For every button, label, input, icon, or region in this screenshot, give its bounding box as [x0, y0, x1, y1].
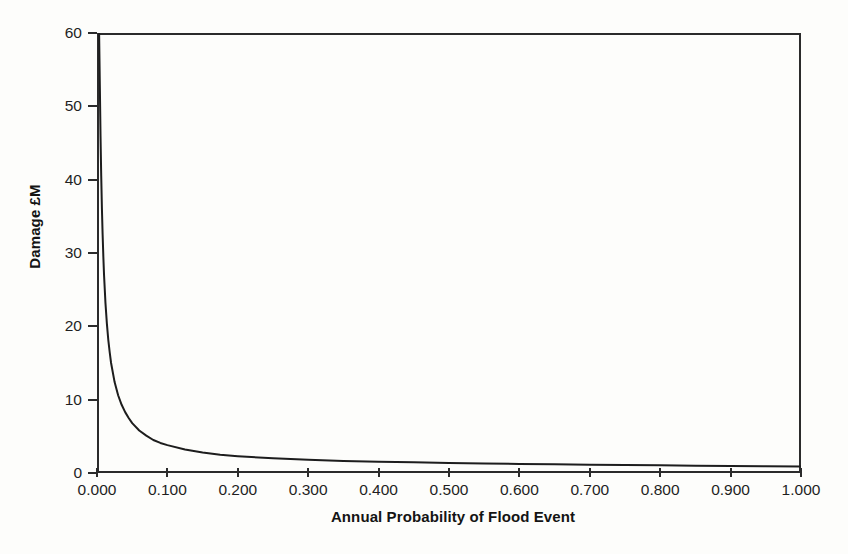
- x-tick-label-text: 0.600: [500, 481, 539, 498]
- x-tick-label-text: 0.800: [641, 481, 680, 498]
- x-tick-mark: [378, 468, 380, 477]
- y-axis-title: Damage £M: [26, 152, 43, 302]
- y-tick-mark: [88, 399, 97, 401]
- x-tick-label-text: 0.000: [78, 481, 117, 498]
- y-tick-mark: [88, 252, 97, 254]
- y-tick-label-text: 0: [34, 465, 82, 481]
- y-tick-label: 60: [34, 25, 82, 41]
- y-tick-label: 20: [34, 318, 82, 334]
- damage-curve-line: [99, 33, 801, 467]
- x-tick-label-text: 1.000: [782, 481, 821, 498]
- x-tick-mark: [237, 468, 239, 477]
- x-tick-label-text: 0.100: [148, 481, 187, 498]
- x-tick-label: 1.000: [756, 481, 846, 499]
- x-tick-mark: [589, 468, 591, 477]
- y-tick-label: 0: [34, 465, 82, 481]
- x-axis-title: Annual Probability of Flood Event: [0, 508, 848, 525]
- y-tick-label-text: 60: [34, 25, 82, 41]
- x-axis-title-text: Annual Probability of Flood Event: [331, 508, 575, 525]
- chart-page: 0102030405060 0.0000.1000.2000.3000.4000…: [0, 0, 848, 554]
- x-tick-mark: [307, 468, 309, 477]
- x-tick-mark: [96, 468, 98, 477]
- x-tick-label-text: 0.200: [218, 481, 257, 498]
- x-tick-label-text: 0.400: [359, 481, 398, 498]
- y-tick-mark: [88, 325, 97, 327]
- y-tick-mark: [88, 179, 97, 181]
- x-tick-mark: [166, 468, 168, 477]
- y-tick-label-text: 20: [34, 318, 82, 334]
- y-tick-mark: [88, 32, 97, 34]
- x-tick-mark: [730, 468, 732, 477]
- x-tick-mark: [659, 468, 661, 477]
- x-tick-mark: [518, 468, 520, 477]
- y-tick-label-text: 50: [34, 98, 82, 114]
- y-tick-mark: [88, 105, 97, 107]
- y-tick-label: 10: [34, 392, 82, 408]
- x-tick-mark: [800, 468, 802, 477]
- x-tick-mark: [448, 468, 450, 477]
- y-tick-label: 50: [34, 98, 82, 114]
- y-tick-label-text: 10: [34, 392, 82, 408]
- x-tick-label-text: 0.700: [570, 481, 609, 498]
- x-tick-label-text: 0.900: [711, 481, 750, 498]
- x-tick-label-text: 0.500: [430, 481, 469, 498]
- damage-curve-svg: [97, 33, 801, 473]
- x-tick-label-text: 0.300: [289, 481, 328, 498]
